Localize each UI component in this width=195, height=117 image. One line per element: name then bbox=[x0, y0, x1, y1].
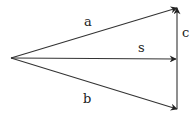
vector-a-label: a bbox=[84, 14, 92, 29]
vector-c-label: c bbox=[182, 25, 189, 40]
vector-diagram: a s b c bbox=[0, 0, 195, 117]
vector-a-arrow bbox=[11, 8, 177, 58]
vector-s-arrow bbox=[11, 58, 176, 59]
vector-b-arrow bbox=[11, 58, 177, 109]
vector-b-label: b bbox=[83, 91, 91, 106]
vector-s-label: s bbox=[138, 40, 145, 55]
